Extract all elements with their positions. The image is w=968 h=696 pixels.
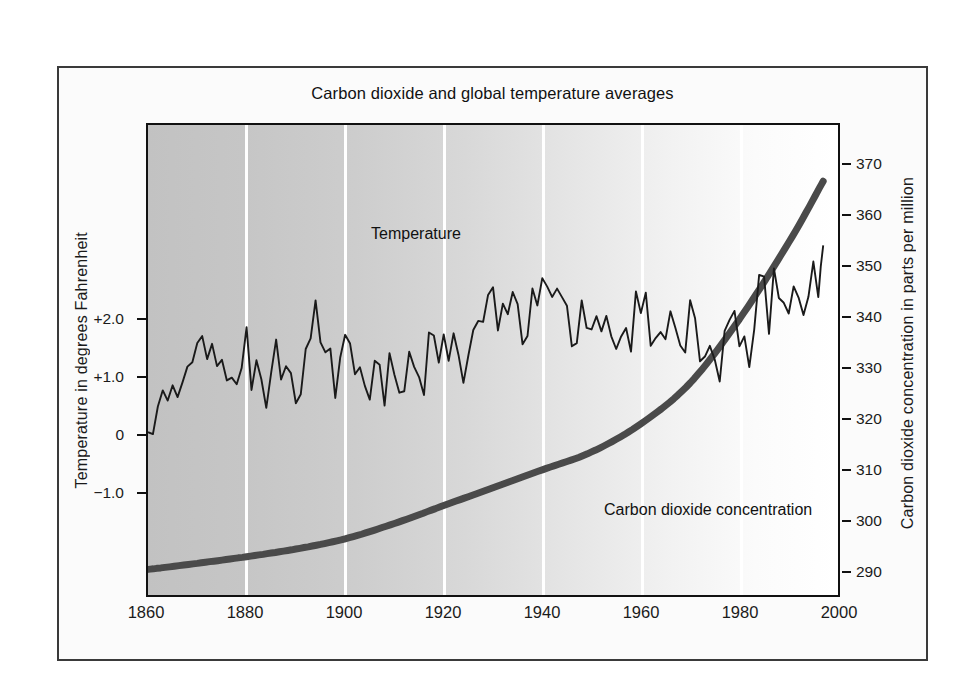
figure-frame: Carbon dioxide and global temperature av… [57, 66, 928, 661]
x-tick-label-1880: 1880 [227, 603, 264, 622]
left-tick-2 [137, 318, 146, 320]
x-tick-label-1980: 1980 [722, 603, 759, 622]
right-tick-label-340: 340 [856, 308, 882, 326]
right-tick-label-310: 310 [856, 461, 882, 479]
right-tick-label-290: 290 [856, 563, 882, 581]
temperature-series-label: Temperature [371, 225, 461, 243]
right-tick-300 [842, 520, 851, 522]
right-axis-title-text: Carbon dioxide concentration in parts pe… [899, 177, 917, 529]
left-tick-neg1 [137, 492, 146, 494]
x-tick-label-2000: 2000 [821, 603, 858, 622]
right-tick-320 [842, 418, 851, 420]
right-tick-label-350: 350 [856, 257, 882, 275]
right-tick-370 [842, 163, 851, 165]
left-tick-label-2: +2.0 [93, 310, 124, 328]
series-svg [148, 125, 838, 595]
right-tick-label-360: 360 [856, 206, 882, 224]
left-tick-label-1: +1.0 [93, 368, 124, 386]
x-tick-label-1940: 1940 [524, 603, 561, 622]
x-tick-label-1900: 1900 [326, 603, 363, 622]
right-tick-330 [842, 367, 851, 369]
chart-title: Carbon dioxide and global temperature av… [59, 84, 926, 103]
right-tick-label-300: 300 [856, 512, 882, 530]
right-tick-label-370: 370 [856, 155, 882, 173]
left-axis-title: Temperature in degrees Fahrenheit [69, 123, 95, 597]
right-tick-label-330: 330 [856, 359, 882, 377]
x-tick-label-1960: 1960 [623, 603, 660, 622]
left-tick-label-0: 0 [115, 426, 124, 444]
plot-area: Temperature Carbon dioxide concentration [146, 123, 840, 597]
right-tick-360 [842, 214, 851, 216]
right-tick-350 [842, 265, 851, 267]
left-tick-0 [137, 434, 146, 436]
co2-series-label: Carbon dioxide concentration [604, 501, 812, 519]
right-tick-340 [842, 316, 851, 318]
left-axis-title-text: Temperature in degrees Fahrenheit [73, 232, 91, 489]
left-tick-label-neg1: −1.0 [93, 484, 124, 502]
x-tick-label-1920: 1920 [425, 603, 462, 622]
left-tick-1 [137, 376, 146, 378]
right-axis-title: Carbon dioxide concentration in parts pe… [895, 98, 921, 608]
right-tick-310 [842, 469, 851, 471]
x-tick-label-1860: 1860 [128, 603, 165, 622]
right-tick-label-320: 320 [856, 410, 882, 428]
right-tick-290 [842, 571, 851, 573]
